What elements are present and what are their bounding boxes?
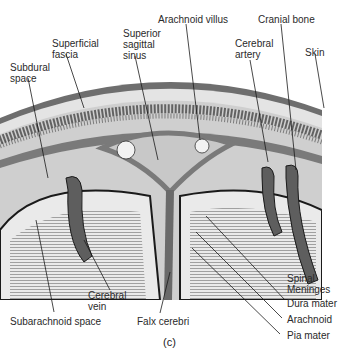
panel-label: (c) bbox=[163, 336, 176, 348]
label-subarachnoid-space: Subarachnoid space bbox=[10, 316, 101, 327]
label-arachnoid-villus: Arachnoid villus bbox=[158, 14, 228, 25]
label-pia-mater: Pia mater bbox=[287, 330, 330, 341]
meninges-diagram: Superficial fascia Superior sagittal sin… bbox=[0, 0, 340, 355]
label-skin: Skin bbox=[305, 47, 324, 58]
label-superior-sagittal-sinus: Superior sagittal sinus bbox=[123, 28, 161, 61]
arachnoid-villus-left bbox=[117, 141, 135, 159]
arachnoid-villus-right bbox=[195, 139, 209, 153]
label-subdural-space: Subdural space bbox=[10, 62, 50, 84]
label-spinal-meninges: Spinal Meninges bbox=[287, 273, 330, 295]
label-dura-mater: Dura mater bbox=[287, 298, 337, 309]
label-cranial-bone: Cranial bone bbox=[258, 14, 315, 25]
label-cerebral-vein: Cerebral vein bbox=[88, 290, 126, 312]
label-arachnoid: Arachnoid bbox=[287, 314, 332, 325]
label-falx-cerebri: Falx cerebri bbox=[137, 316, 189, 327]
label-superficial-fascia: Superficial fascia bbox=[52, 38, 99, 60]
label-cerebral-artery: Cerebral artery bbox=[235, 38, 273, 60]
